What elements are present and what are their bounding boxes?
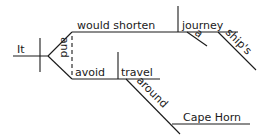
lower-fork-line — [48, 56, 72, 79]
word-subject: It — [17, 43, 25, 56]
sentence-diagram: It and would shorten journey a ship's av… — [0, 0, 280, 140]
word-verb2: avoid — [75, 66, 105, 79]
word-conjunction: and — [58, 37, 71, 58]
word-verb1: would shorten — [77, 19, 155, 32]
word-object2: travel — [121, 66, 153, 79]
word-prep-object: Cape Horn — [183, 111, 241, 124]
